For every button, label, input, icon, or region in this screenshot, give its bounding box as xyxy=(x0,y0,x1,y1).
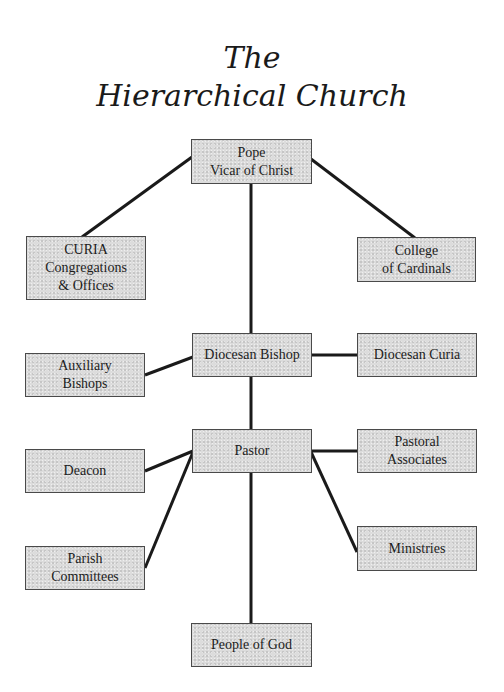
node-college-line1: College xyxy=(395,242,439,260)
node-deacon-label: Deacon xyxy=(64,462,107,480)
node-people-of-god: People of God xyxy=(191,623,312,667)
node-auxiliary-bishops: Auxiliary Bishops xyxy=(25,353,145,397)
node-curia: CURIA Congregations & Offices xyxy=(26,236,146,300)
node-pastoral-line2: Associates xyxy=(387,451,447,469)
node-diocesan-curia: Diocesan Curia xyxy=(357,333,477,377)
node-pope: Pope Vicar of Christ xyxy=(191,139,312,184)
node-diocesan-bishop: Diocesan Bishop xyxy=(192,333,312,377)
edge-pope-curia xyxy=(82,157,192,237)
node-college-line2: of Cardinals xyxy=(382,260,451,278)
node-diocesan-curia-label: Diocesan Curia xyxy=(374,346,461,364)
node-auxiliary-line2: Bishops xyxy=(62,375,107,393)
node-parish-committees: Parish Committees xyxy=(25,546,145,590)
node-pastor-label: Pastor xyxy=(235,442,270,460)
edge-pastor-ministries xyxy=(311,452,357,552)
node-deacon: Deacon xyxy=(25,449,145,493)
node-pastoral-associates: Pastoral Associates xyxy=(357,429,477,473)
node-ministries: Ministries xyxy=(357,526,477,571)
node-college-of-cardinals: College of Cardinals xyxy=(357,237,476,282)
node-curia-line1: CURIA xyxy=(64,241,108,259)
node-parish-line1: Parish xyxy=(68,550,103,568)
node-auxiliary-line1: Auxiliary xyxy=(58,357,112,375)
node-parish-line2: Committees xyxy=(51,568,119,586)
node-pope-line1: Pope xyxy=(238,144,266,162)
edge-bishop-auxiliary xyxy=(145,357,193,375)
node-pastor: Pastor xyxy=(192,429,312,473)
edge-pope-college xyxy=(311,159,415,238)
node-pastoral-line1: Pastoral xyxy=(394,433,439,451)
node-diocesan-bishop-label: Diocesan Bishop xyxy=(204,346,299,364)
node-curia-line3: & Offices xyxy=(58,277,113,295)
node-curia-line2: Congregations xyxy=(45,259,127,277)
node-pope-line2: Vicar of Christ xyxy=(210,162,293,180)
node-people-of-god-label: People of God xyxy=(211,636,292,654)
node-ministries-label: Ministries xyxy=(389,540,446,558)
